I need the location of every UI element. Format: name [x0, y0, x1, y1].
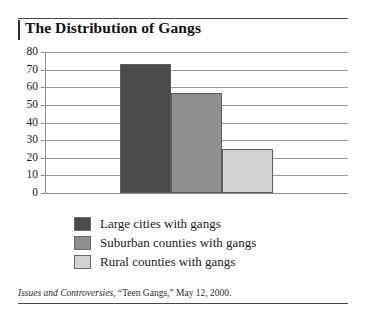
legend-label: Large cities with gangs: [100, 215, 221, 233]
legend-label: Rural counties with gangs: [100, 253, 235, 271]
source-publication: Issues and Controversies: [18, 288, 113, 298]
legend-label: Suburban counties with gangs: [100, 234, 256, 252]
bar: [171, 93, 222, 193]
legend-item: Rural counties with gangs: [74, 253, 304, 272]
source-details: , “Teen Gangs,” May 12, 2000.: [113, 288, 231, 298]
chart-legend: Large cities with gangsSuburban counties…: [74, 215, 304, 272]
bar: [120, 64, 171, 193]
chart-figure: The Distribution of Gangs 80706050403020…: [0, 0, 366, 313]
bar: [222, 149, 273, 193]
legend-swatch: [74, 217, 91, 231]
legend-item: Suburban counties with gangs: [74, 234, 304, 253]
legend-swatch: [74, 236, 91, 250]
figure-bottom-rule: [18, 303, 348, 304]
legend-item: Large cities with gangs: [74, 215, 304, 234]
source-citation: Issues and Controversies, “Teen Gangs,” …: [18, 288, 232, 298]
legend-swatch: [74, 255, 91, 269]
